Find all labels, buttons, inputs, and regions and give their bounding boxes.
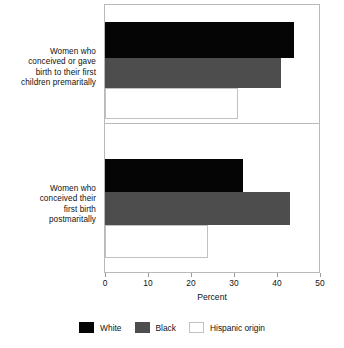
category-label-line: Women who — [0, 184, 96, 194]
bar-g2-black — [105, 192, 290, 225]
x-tick-40 — [277, 273, 278, 277]
bar-chart-figure: Women who conceived or gave birth to the… — [0, 0, 344, 348]
x-tick-label-40: 40 — [262, 278, 292, 288]
category-label-line: postmaritally — [0, 215, 96, 225]
x-tick-label-10: 10 — [133, 278, 163, 288]
x-tick-0 — [105, 273, 106, 277]
category-label-premaritally: Women who conceived or gave birth to the… — [0, 47, 96, 89]
x-tick-label-30: 30 — [219, 278, 249, 288]
category-label-line: conceived their — [0, 194, 96, 204]
x-tick-30 — [234, 273, 235, 277]
solid-gray-swatch-icon — [135, 322, 150, 333]
panel-divider — [105, 123, 319, 124]
chart-legend: White Black Hispanic origin — [0, 322, 344, 333]
legend-label-white: White — [100, 323, 121, 333]
legend-item-black: Black — [135, 322, 176, 333]
legend-label-black: Black — [156, 323, 176, 333]
category-label-line: first birth — [0, 205, 96, 215]
bar-g2-white — [105, 159, 243, 192]
bar-g1-hispanic — [105, 88, 238, 119]
x-tick-label-50: 50 — [305, 278, 335, 288]
x-axis-title: Percent — [104, 292, 320, 302]
legend-item-hispanic: Hispanic origin — [189, 322, 265, 333]
bar-g2-hispanic — [105, 225, 208, 258]
x-tick-10 — [148, 273, 149, 277]
x-tick-label-20: 20 — [176, 278, 206, 288]
x-tick-20 — [191, 273, 192, 277]
category-label-line: Women who — [0, 47, 96, 57]
bar-g1-white — [105, 22, 294, 58]
category-label-line: birth to their first — [0, 68, 96, 78]
solid-black-swatch-icon — [79, 322, 94, 333]
category-label-line: children premaritally — [0, 78, 96, 88]
legend-item-white: White — [79, 322, 121, 333]
category-label-postmaritally: Women who conceived their first birth po… — [0, 184, 96, 226]
x-tick-50 — [320, 273, 321, 277]
x-tick-label-0: 0 — [90, 278, 120, 288]
category-label-line: conceived or gave — [0, 57, 96, 67]
legend-label-hispanic: Hispanic origin — [210, 323, 265, 333]
bar-g1-black — [105, 58, 281, 88]
outlined-white-swatch-icon — [189, 322, 204, 333]
